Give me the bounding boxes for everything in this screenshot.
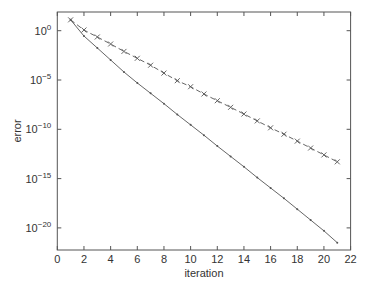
x-tick-label: 22 [344, 253, 356, 265]
x-marker [321, 152, 326, 157]
dot-marker [336, 242, 338, 244]
dot-marker [136, 82, 138, 84]
x-tick-label: 2 [81, 253, 87, 265]
dot-marker [96, 47, 98, 49]
x-tick-label: 12 [211, 253, 223, 265]
y-tick-label: 10−5 [30, 72, 52, 86]
x-marker [108, 42, 113, 47]
dot-marker [323, 230, 325, 232]
dot-marker [230, 155, 232, 157]
dot-marker [83, 35, 85, 37]
y-tick-label: 10−20 [25, 220, 51, 234]
x-marker [308, 146, 313, 151]
x-axis-label: iteration [184, 267, 223, 279]
x-marker [228, 105, 233, 110]
x-tick-label: 10 [184, 253, 196, 265]
x-marker [161, 71, 166, 76]
x-tick-label: 4 [108, 253, 114, 265]
dot-marker [310, 219, 312, 221]
x-marker [121, 49, 126, 54]
x-marker [255, 118, 260, 123]
x-marker [135, 56, 140, 61]
x-marker [241, 112, 246, 117]
x-marker [175, 78, 180, 83]
y-axis-label: error [11, 119, 23, 143]
plot-frame [57, 12, 350, 250]
dot-marker [216, 145, 218, 147]
dot-marker [190, 124, 192, 126]
chart: 0246810121416182022 10010−510−1010−1510−… [0, 0, 371, 291]
x-marker [295, 139, 300, 144]
y-tick-label: 10−15 [25, 171, 51, 185]
x-tick-label: 0 [54, 253, 60, 265]
dot-marker [296, 208, 298, 210]
x-marker [81, 28, 86, 33]
x-marker [188, 84, 193, 89]
x-marker [335, 159, 340, 164]
x-marker [268, 125, 273, 130]
x-tick-label: 6 [134, 253, 140, 265]
data-series [68, 17, 340, 243]
y-axis-ticks: 10010−510−1010−1510−20 [25, 23, 350, 234]
x-tick-label: 20 [318, 253, 330, 265]
dot-marker [243, 166, 245, 168]
dot-marker [270, 187, 272, 189]
dot-marker [163, 103, 165, 105]
dot-marker [110, 59, 112, 61]
x-tick-label: 14 [238, 253, 250, 265]
dot-marker [70, 19, 72, 21]
dot-marker [203, 134, 205, 136]
x-marker [148, 63, 153, 68]
x-tick-label: 18 [291, 253, 303, 265]
x-marker [281, 132, 286, 137]
y-tick-label: 10−10 [25, 121, 51, 135]
y-tick-label: 100 [35, 23, 52, 37]
x-tick-label: 16 [264, 253, 276, 265]
dot-marker [150, 92, 152, 94]
x-marker [95, 35, 100, 40]
dot-marker [256, 177, 258, 179]
x-tick-label: 8 [161, 253, 167, 265]
dot-marker [123, 71, 125, 73]
x-marker [215, 98, 220, 103]
dot-marker [176, 114, 178, 116]
dot-marker [283, 197, 285, 199]
x-marker [201, 92, 206, 97]
